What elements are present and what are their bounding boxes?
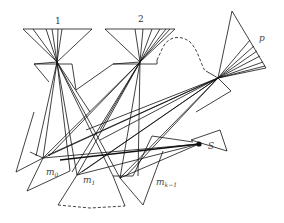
source-point-s xyxy=(196,141,201,146)
label-m0: m0 xyxy=(46,167,59,178)
dashed-curve-2-to-p xyxy=(157,37,205,71)
label-m1: m1 xyxy=(83,175,95,186)
dashed-line-m1-to-mk xyxy=(58,205,125,208)
label-node-s: S xyxy=(208,141,214,151)
label-node-2: 2 xyxy=(138,14,144,24)
label-node-1: 1 xyxy=(55,16,61,26)
label-mk-1: mk−1 xyxy=(156,177,177,188)
node-2-fan xyxy=(105,29,175,62)
label-node-p: p xyxy=(259,33,265,43)
diagram-canvas: 1 2 p S m0 m1 mk−1 xyxy=(0,0,284,223)
node-1-fan xyxy=(23,29,92,62)
node-p-fan xyxy=(218,11,266,78)
node-p-lower xyxy=(196,71,231,112)
